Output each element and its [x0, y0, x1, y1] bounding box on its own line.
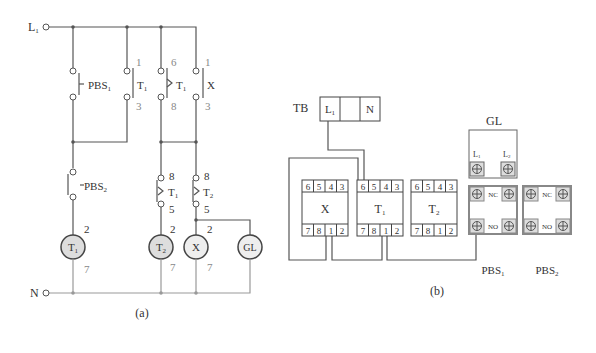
n-label: N	[30, 286, 39, 300]
svg-text:NC: NC	[488, 191, 498, 199]
svg-text:PBS2: PBS2	[84, 180, 108, 194]
svg-text:5: 5	[317, 182, 322, 192]
pbs1-push-button: NC NO PBS1	[469, 186, 517, 278]
svg-text:1: 1	[384, 226, 389, 236]
svg-text:PBS1: PBS1	[481, 264, 505, 278]
gl-lamp-box: GL L1 L2	[469, 114, 517, 178]
svg-text:GL: GL	[486, 114, 502, 128]
svg-text:3: 3	[395, 182, 400, 192]
svg-text:6: 6	[361, 182, 366, 192]
svg-text:3: 3	[136, 100, 142, 112]
svg-text:PBS1: PBS1	[88, 79, 112, 93]
caption-a: (a)	[135, 306, 148, 320]
svg-text:4: 4	[329, 182, 334, 192]
svg-text:PBS2: PBS2	[535, 264, 559, 278]
t1-coil: T1 2 7	[61, 223, 90, 275]
svg-text:8: 8	[317, 226, 322, 236]
svg-text:7: 7	[306, 226, 311, 236]
svg-text:2: 2	[207, 223, 213, 235]
x-relay-coil: X 2 7	[184, 223, 213, 273]
svg-text:2: 2	[84, 223, 90, 235]
svg-text:NO: NO	[488, 223, 498, 231]
svg-text:X: X	[321, 202, 330, 216]
svg-text:2: 2	[340, 226, 345, 236]
svg-text:8: 8	[204, 170, 210, 182]
pbs2-contact: PBS2	[68, 169, 108, 200]
t2-timer-socket: 6543 7812 T2	[411, 180, 457, 236]
svg-text:2: 2	[395, 226, 400, 236]
svg-text:T2: T2	[203, 186, 214, 200]
svg-text:8: 8	[169, 170, 175, 182]
svg-text:6: 6	[171, 56, 177, 68]
pbs2-push-button: NC NO PBS2	[523, 186, 571, 278]
svg-text:5: 5	[169, 203, 175, 215]
svg-text:T1: T1	[168, 186, 179, 200]
svg-text:N: N	[366, 103, 374, 115]
svg-text:8: 8	[426, 226, 431, 236]
control-circuit-diagram: L1 PBS1 1 T1 3 6	[0, 0, 596, 353]
x-relay-socket: 6543 7812 X	[302, 180, 348, 236]
svg-text:3: 3	[205, 100, 211, 112]
t1-timer-socket: 6543 7812 T1	[357, 180, 403, 236]
svg-text:1: 1	[438, 226, 443, 236]
l1-terminal	[43, 24, 49, 30]
svg-text:8: 8	[171, 100, 177, 112]
gl-lamp: GL	[238, 235, 262, 259]
svg-text:5: 5	[204, 203, 210, 215]
l1-label: L1	[28, 20, 39, 35]
svg-text:GL: GL	[243, 242, 256, 253]
caption-b: (b)	[430, 284, 444, 298]
svg-text:8: 8	[372, 226, 377, 236]
pbs1-contact: PBS1	[70, 68, 112, 100]
svg-text:NO: NO	[542, 223, 552, 231]
svg-text:6: 6	[415, 182, 420, 192]
svg-text:1: 1	[329, 226, 334, 236]
svg-text:7: 7	[207, 261, 213, 273]
svg-text:3: 3	[449, 182, 454, 192]
svg-text:7: 7	[84, 263, 90, 275]
svg-text:4: 4	[384, 182, 389, 192]
t1-timer-contact: 6 T1 8	[158, 56, 187, 112]
svg-text:2: 2	[170, 223, 176, 235]
svg-text:7: 7	[415, 226, 420, 236]
svg-text:1: 1	[136, 56, 142, 68]
svg-text:T1: T1	[176, 79, 187, 93]
terminal-block: L1 N	[320, 97, 380, 121]
wiring-diagram-b: TB L1 N 6543 7812 X	[289, 97, 571, 298]
tb-label: TB	[293, 101, 308, 115]
t1-timer-nc-contact: 8 T1 5	[157, 170, 179, 215]
n-terminal	[43, 290, 49, 296]
svg-text:5: 5	[426, 182, 431, 192]
svg-text:X: X	[207, 79, 215, 91]
svg-text:6: 6	[306, 182, 311, 192]
ladder-diagram-a: L1 PBS1 1 T1 3 6	[28, 20, 262, 320]
svg-text:5: 5	[372, 182, 377, 192]
svg-text:4: 4	[438, 182, 443, 192]
svg-text:T1: T1	[137, 79, 148, 93]
svg-text:X: X	[192, 241, 200, 253]
t2-coil: T2 2 7	[149, 223, 176, 273]
svg-text:7: 7	[361, 226, 366, 236]
svg-text:2: 2	[449, 226, 454, 236]
svg-text:7: 7	[170, 261, 176, 273]
svg-text:1: 1	[205, 56, 211, 68]
svg-text:3: 3	[340, 182, 345, 192]
svg-text:NC: NC	[542, 191, 552, 199]
